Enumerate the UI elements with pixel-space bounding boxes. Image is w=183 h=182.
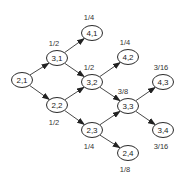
probability-label: 1/2 xyxy=(49,39,59,48)
graph-node: 2,3 xyxy=(82,123,103,138)
node-label: 3,4 xyxy=(157,126,169,135)
edge-arrow xyxy=(136,111,156,125)
node-label: 2,4 xyxy=(122,149,134,158)
edge-arrow xyxy=(30,63,49,75)
edge-arrow xyxy=(64,38,84,52)
graph-node: 4,2 xyxy=(118,50,139,65)
edge-arrow xyxy=(29,85,49,99)
node-label: 3,2 xyxy=(86,78,98,87)
node-label: 2,3 xyxy=(86,126,98,135)
graph-node: 4,3 xyxy=(153,75,174,90)
probability-label: 1/8 xyxy=(120,165,130,174)
probability-label: 3/16 xyxy=(154,142,169,151)
probability-label: 1/4 xyxy=(120,38,130,47)
edge-arrow xyxy=(100,111,121,125)
node-label: 4,3 xyxy=(157,78,169,87)
node-label: 3,1 xyxy=(51,54,63,63)
node-label: 4,1 xyxy=(86,29,98,38)
graph-node: 3,2 xyxy=(82,75,103,90)
probability-label: 1/4 xyxy=(84,13,94,22)
node-label: 2,2 xyxy=(51,101,63,110)
nodes: 2,13,14,13,24,22,23,34,32,33,42,4 xyxy=(12,26,174,161)
edge-arrow xyxy=(64,110,84,124)
node-label: 3,3 xyxy=(122,102,134,111)
probability-tree-diagram: 2,13,14,13,24,22,23,34,32,33,42,4 1/21/4… xyxy=(0,0,183,182)
edge-arrow xyxy=(65,63,85,77)
node-label: 2,1 xyxy=(16,76,28,85)
probability-label: 1/2 xyxy=(84,63,94,72)
edge-arrow xyxy=(136,87,156,101)
edge-arrow xyxy=(100,62,121,77)
probability-label: 1/4 xyxy=(84,142,94,151)
graph-node: 2,1 xyxy=(12,73,33,88)
graph-node: 4,1 xyxy=(82,26,103,41)
edge-arrow xyxy=(100,135,120,148)
graph-node: 2,4 xyxy=(118,146,139,161)
probability-label: 3/16 xyxy=(154,63,169,72)
graph-node: 3,3 xyxy=(118,99,139,114)
node-label: 4,2 xyxy=(122,53,134,62)
graph-node: 3,4 xyxy=(153,123,174,138)
graph-node: 3,1 xyxy=(47,51,68,66)
graph-node: 2,2 xyxy=(47,98,68,113)
edge-arrow xyxy=(65,87,85,100)
probability-label: 1/2 xyxy=(49,118,59,127)
probability-label: 3/8 xyxy=(118,87,128,96)
